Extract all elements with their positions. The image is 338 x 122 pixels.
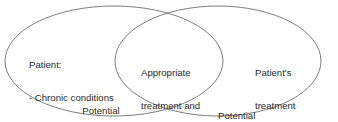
treatment-line-2: treatment (255, 100, 296, 111)
treatment-line-1: Patient's (255, 67, 296, 78)
potential-underuse-label: Potential underuse (66, 83, 136, 122)
treatment-set-label: Patient's treatment (255, 45, 296, 122)
underuse-line-1: Potential (66, 105, 136, 116)
intersection-line-1: Appropriate (141, 67, 210, 78)
overuse-line-1: Potential (218, 110, 255, 121)
potential-overuse-label: Potential overuse (218, 88, 255, 122)
intersection-label: Appropriate treatment and potential misu… (141, 45, 210, 122)
patient-heading: Patient: (29, 59, 124, 70)
intersection-line-2: treatment and (141, 100, 210, 111)
